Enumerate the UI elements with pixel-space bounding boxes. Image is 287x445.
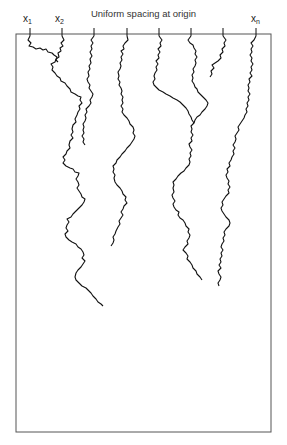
- path-x5: [153, 36, 194, 123]
- origin-ticks: [30, 28, 256, 36]
- path-x2: [51, 36, 103, 306]
- frame-border: [16, 34, 271, 432]
- path-x7: [210, 36, 226, 77]
- path-x3: [82, 36, 94, 145]
- coalescing-paths-diagram: [0, 0, 287, 445]
- path-x8: [218, 36, 256, 286]
- random-walk-paths: [28, 36, 256, 306]
- path-x4: [111, 36, 135, 246]
- path-x1: [28, 36, 58, 62]
- path-x6: [172, 36, 208, 280]
